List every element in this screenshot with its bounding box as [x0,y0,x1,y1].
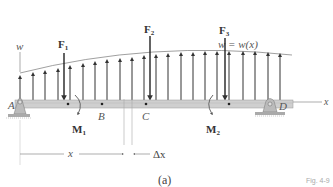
load-curve-label: w = w(x) [218,38,258,51]
beam [15,100,293,108]
point-dot-2 [228,103,231,106]
moment-m2-label: M2 [206,123,220,137]
point-c-dot [145,103,148,106]
force-f2-label: F2 [144,23,155,37]
point-a-label: A [7,99,15,111]
force-f3-label: F3 [219,24,230,38]
dim-x-label: x [67,147,73,159]
point-b-label: B [98,110,105,122]
force-f1-label: F1 [58,38,69,52]
beam-diagram: w w = w(x) F1 F2 F3 [0,0,333,187]
point-d-label: D [278,100,287,112]
x-axis-label: x [323,96,329,107]
moment-m1-label: M1 [72,123,86,137]
dim-dx-label: Δx [153,148,166,160]
point-b-dot [101,103,104,106]
point-dot-1 [67,103,70,106]
w-axis-label: w [16,40,24,52]
subfigure-label: (a) [158,173,171,187]
figure-label: Fig. 4-9 [306,177,330,185]
point-c-label: C [142,110,150,122]
